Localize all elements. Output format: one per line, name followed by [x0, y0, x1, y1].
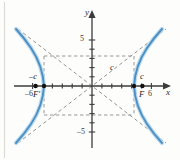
x-tick-label-6: 6 — [148, 90, 152, 98]
hyperbola-graph-svg — [0, 0, 180, 160]
figure-background — [0, 0, 180, 160]
hyperbola-figure-panel: x y 5 –5 –6 6 –c c F′ F c — [0, 0, 180, 160]
y-axis-label: y — [85, 8, 89, 17]
vertex-right-point — [132, 84, 136, 88]
right-focus-label: F — [139, 90, 144, 99]
focus-right-point — [140, 84, 144, 88]
focus-left-point — [33, 84, 37, 88]
interior-c-label: c — [110, 63, 114, 72]
y-tick-label-5: 5 — [80, 35, 84, 43]
y-tick-label-minus-5: –5 — [77, 128, 85, 136]
vertex-left-point — [42, 84, 46, 88]
left-focus-label: F′ — [33, 90, 40, 99]
right-c-label: c — [140, 72, 144, 81]
left-c-label: –c — [29, 72, 37, 81]
x-tick-label-minus-6: –6 — [25, 90, 33, 98]
x-axis-label: x — [166, 88, 170, 97]
